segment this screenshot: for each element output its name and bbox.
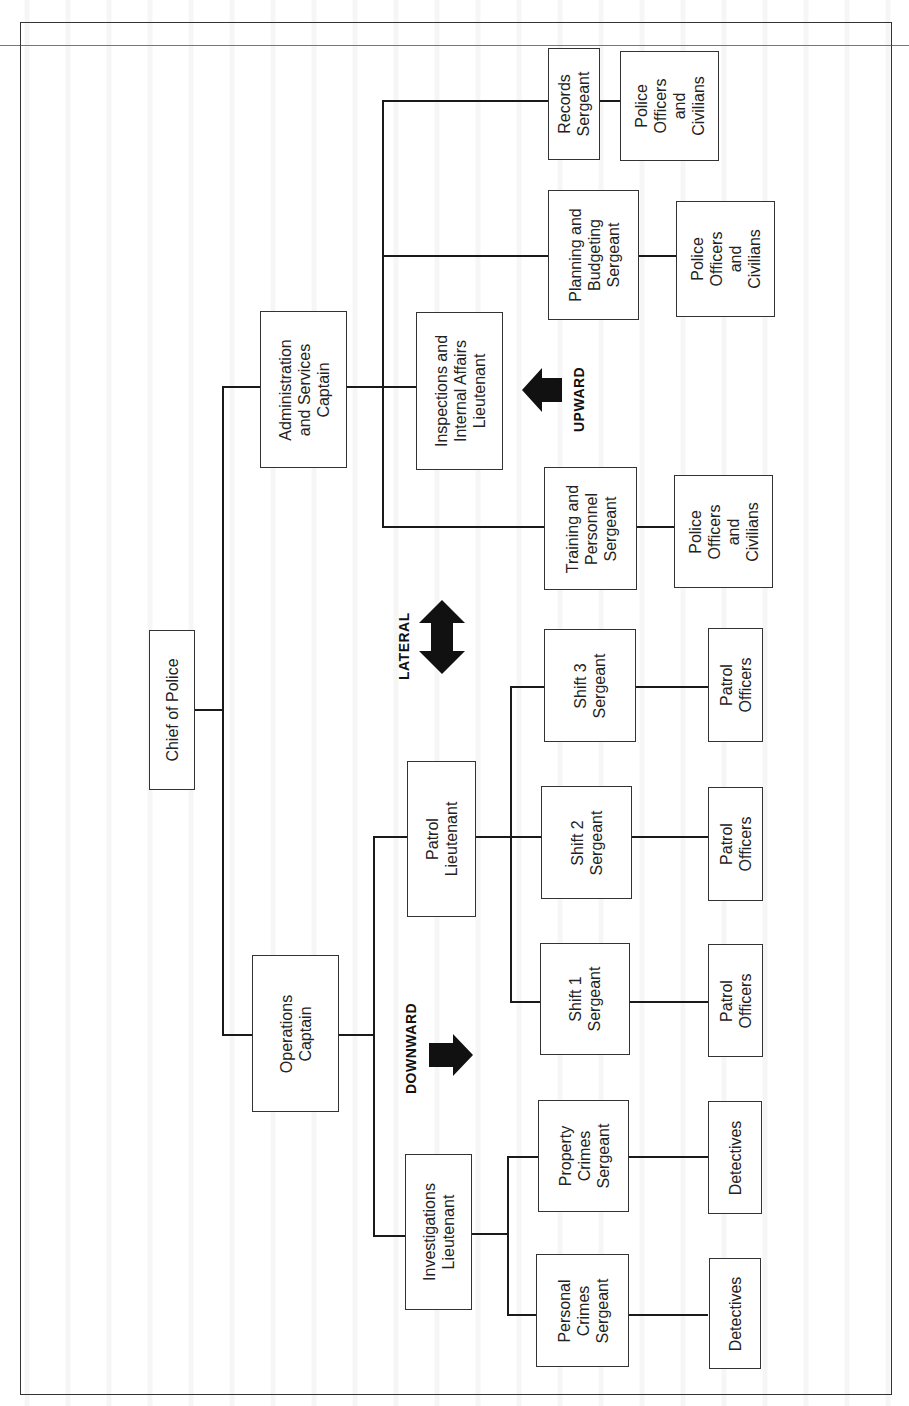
node-shift2-sergeant: Shift 2 Sergeant (541, 786, 632, 899)
connector (629, 1314, 708, 1316)
upward-label: UPWARD (571, 367, 587, 432)
node-shift3-sergeant: Shift 3 Sergeant (544, 629, 636, 742)
connector (629, 1156, 708, 1158)
node-planning-budgeting-sergeant: Planning and Budgeting Sergeant (548, 190, 639, 320)
node-property-crimes-sergeant: Property Crimes Sergeant (538, 1100, 629, 1212)
downward-arrow-icon (429, 1032, 473, 1078)
connector (222, 386, 260, 388)
connector (636, 686, 708, 688)
node-property-detectives: Detectives (708, 1101, 762, 1214)
connector (599, 100, 620, 102)
node-records-staff: Police Officers and Civilians (620, 51, 719, 161)
connector (632, 836, 708, 838)
connector (195, 709, 223, 711)
connector (382, 255, 548, 257)
upward-arrow-icon (522, 366, 564, 414)
connector (510, 1001, 540, 1003)
node-shift2-patrol-officers: Patrol Officers (708, 787, 763, 901)
node-shift1-sergeant: Shift 1 Sergeant (540, 943, 630, 1055)
node-training-personnel-sergeant: Training and Personnel Sergeant (544, 467, 637, 590)
connector (510, 686, 544, 688)
connector (476, 836, 541, 838)
connector (639, 255, 676, 257)
connector (507, 1156, 538, 1158)
lateral-label: LATERAL (396, 612, 412, 680)
node-shift1-patrol-officers: Patrol Officers (708, 944, 763, 1057)
connector (339, 1034, 374, 1036)
connector (373, 836, 375, 1237)
connector (373, 1235, 405, 1237)
connector (507, 1314, 536, 1316)
connector (373, 836, 407, 838)
node-inspections-internal-affairs-lieutenant: Inspections and Internal Affairs Lieuten… (416, 312, 503, 470)
connector (382, 526, 544, 528)
downward-label: DOWNWARD (403, 1003, 419, 1094)
node-records-sergeant: Records Sergeant (548, 48, 600, 160)
connector (637, 526, 674, 528)
node-patrol-lieutenant: Patrol Lieutenant (407, 761, 476, 917)
connector (222, 386, 224, 1036)
node-investigations-lieutenant: Investigations Lieutenant (405, 1154, 472, 1310)
connector (510, 686, 512, 1003)
node-chief-of-police: Chief of Police (149, 630, 195, 790)
connector (222, 1034, 252, 1036)
node-operations-captain: Operations Captain (252, 955, 339, 1112)
connector (472, 1233, 508, 1235)
connector (507, 1156, 509, 1316)
lateral-arrow-icon (418, 600, 466, 674)
node-personal-detectives: Detectives (709, 1258, 761, 1369)
connector (630, 1001, 708, 1003)
node-shift3-patrol-officers: Patrol Officers (708, 628, 763, 742)
connector (382, 100, 384, 528)
node-admin-services-captain: Administration and Services Captain (260, 311, 347, 468)
node-training-staff: Police Officers and Civilians (674, 475, 773, 588)
connector (382, 100, 548, 102)
node-personal-crimes-sergeant: Personal Crimes Sergeant (536, 1254, 629, 1367)
node-planning-staff: Police Officers and Civilians (676, 201, 775, 317)
